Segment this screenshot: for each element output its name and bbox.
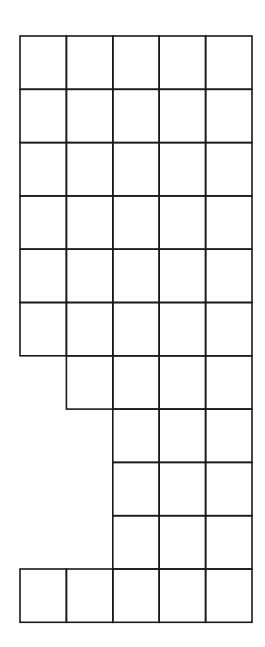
grid-cell	[20, 36, 66, 89]
grid-cell	[66, 569, 112, 622]
grid-cell	[113, 143, 159, 196]
grid-cell	[113, 89, 159, 142]
grid-cell	[20, 143, 66, 196]
grid-cell	[20, 89, 66, 142]
grid-cell	[66, 356, 112, 409]
grid-cell	[20, 569, 66, 622]
grid-cell	[66, 196, 112, 249]
grid-cell	[113, 196, 159, 249]
grid-cell	[206, 516, 252, 569]
grid-cell	[159, 356, 205, 409]
grid-cell	[66, 36, 112, 89]
grid-cell	[159, 36, 205, 89]
grid-cell	[159, 409, 205, 462]
grid-cell	[113, 356, 159, 409]
grid-cell	[159, 462, 205, 515]
grid-cell	[159, 516, 205, 569]
grid-cell	[66, 143, 112, 196]
grid-cell	[66, 89, 112, 142]
grid-cell	[206, 303, 252, 356]
grid-cell	[206, 409, 252, 462]
grid-cell	[159, 143, 205, 196]
grid-diagram	[0, 0, 265, 647]
grid-cell	[159, 303, 205, 356]
grid-cell	[113, 36, 159, 89]
grid-cell	[20, 303, 66, 356]
grid-cell	[113, 569, 159, 622]
grid-cell	[113, 303, 159, 356]
grid-cell	[113, 409, 159, 462]
grid-cell	[113, 462, 159, 515]
grid-cell	[206, 196, 252, 249]
grid-cell	[159, 89, 205, 142]
grid-cell	[113, 249, 159, 302]
grid-cell	[206, 569, 252, 622]
grid-cell	[66, 249, 112, 302]
grid-cell	[20, 196, 66, 249]
grid-cell	[159, 196, 205, 249]
grid-cell	[206, 462, 252, 515]
grid-cell	[113, 516, 159, 569]
grid-cell	[206, 249, 252, 302]
grid-cell	[66, 303, 112, 356]
grid-cell	[159, 249, 205, 302]
grid-cell	[20, 249, 66, 302]
grid-cell	[159, 569, 205, 622]
grid-cell	[206, 356, 252, 409]
grid-cell	[206, 143, 252, 196]
grid-cell	[206, 36, 252, 89]
grid-cell	[206, 89, 252, 142]
